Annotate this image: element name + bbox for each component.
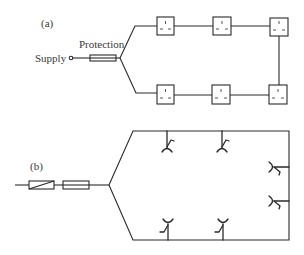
socket-outlet-icon — [269, 196, 289, 209]
ring-circuit-diagrams: (a) Protection Supply — [0, 0, 304, 255]
socket-outlet-icon — [215, 219, 228, 240]
ring-wire — [109, 131, 289, 240]
socket-outlet-icon — [157, 17, 174, 35]
diagram-b-label: (b) — [30, 160, 43, 173]
socket-outlet-icon — [217, 131, 229, 152]
upper-branch-wire — [120, 26, 157, 58]
diagram-a-label: (a) — [41, 17, 54, 30]
lower-branch-wire — [120, 58, 157, 93]
supply-terminal-icon — [69, 56, 73, 60]
diagram-b: (b) — [15, 131, 289, 240]
diagram-a: (a) Protection Supply — [35, 17, 288, 104]
socket-outlet-icon — [270, 18, 288, 36]
supply-label: Supply — [35, 52, 67, 64]
socket-outlet-icon — [269, 162, 289, 175]
socket-outlet-icon — [212, 85, 230, 104]
socket-outlet-icon — [269, 85, 287, 104]
socket-outlet-icon — [162, 131, 174, 152]
socket-outlet-icon — [160, 219, 173, 240]
socket-outlet-icon — [157, 85, 174, 104]
protection-label: Protection — [79, 38, 125, 50]
socket-outlet-icon — [213, 17, 231, 35]
